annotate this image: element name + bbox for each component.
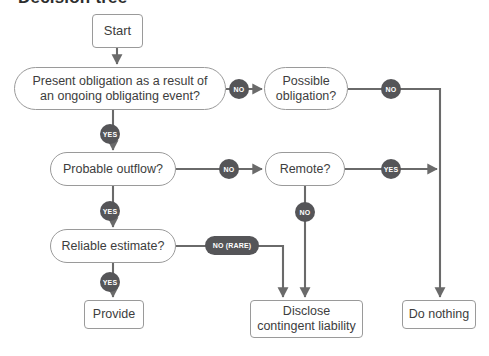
node-label: Possibleobligation? — [276, 74, 336, 104]
node-label: Disclosecontingent liability — [257, 304, 356, 334]
badge-label: YES — [103, 279, 118, 286]
badge-yes-remote: YES — [381, 159, 401, 179]
node-label: Present obligation as a result ofan ongo… — [32, 74, 207, 104]
badge-no-possible-obligation: NO — [381, 79, 401, 99]
badge-label: NO — [224, 166, 235, 173]
node-reliable-estimate[interactable]: Reliable estimate? — [50, 229, 176, 263]
node-label: Provide — [93, 307, 135, 322]
connector-possible-obligation-no-to-right-rail — [348, 89, 440, 297]
badge-no-remote: NO — [295, 202, 315, 222]
badge-no-rare-reliable-estimate: NO (RARE) — [205, 236, 259, 255]
node-label: Do nothing — [409, 307, 469, 322]
node-start[interactable]: Start — [92, 14, 143, 48]
badge-label: YES — [384, 166, 399, 173]
node-do-nothing[interactable]: Do nothing — [402, 300, 476, 329]
page-title: Decision tree — [18, 0, 127, 8]
badge-yes-reliable-estimate: YES — [100, 272, 120, 292]
node-present-obligation[interactable]: Present obligation as a result ofan ongo… — [14, 67, 226, 110]
node-disclose[interactable]: Disclosecontingent liability — [250, 300, 363, 338]
badge-no-present-obligation: NO — [229, 79, 249, 99]
badge-label: NO — [386, 86, 397, 93]
badge-no-probable-outflow: NO — [219, 159, 239, 179]
node-label: Remote? — [280, 162, 331, 177]
node-label: Reliable estimate? — [62, 239, 165, 254]
node-remote[interactable]: Remote? — [265, 152, 345, 186]
badge-label: YES — [103, 208, 118, 215]
badge-yes-probable-outflow: YES — [100, 201, 120, 221]
badge-label: NO — [300, 209, 311, 216]
decision-tree-flowchart: Decision tree StartPresent obligation as… — [0, 0, 489, 356]
node-provide[interactable]: Provide — [84, 300, 144, 329]
badge-label: YES — [103, 131, 118, 138]
badge-label: NO (RARE) — [213, 242, 252, 249]
node-probable-outflow[interactable]: Probable outflow? — [50, 152, 176, 186]
badge-label: NO — [234, 86, 245, 93]
node-label: Probable outflow? — [63, 162, 163, 177]
badge-yes-present-obligation: YES — [100, 124, 120, 144]
node-label: Start — [104, 23, 131, 38]
node-possible-obligation[interactable]: Possibleobligation? — [264, 67, 348, 110]
